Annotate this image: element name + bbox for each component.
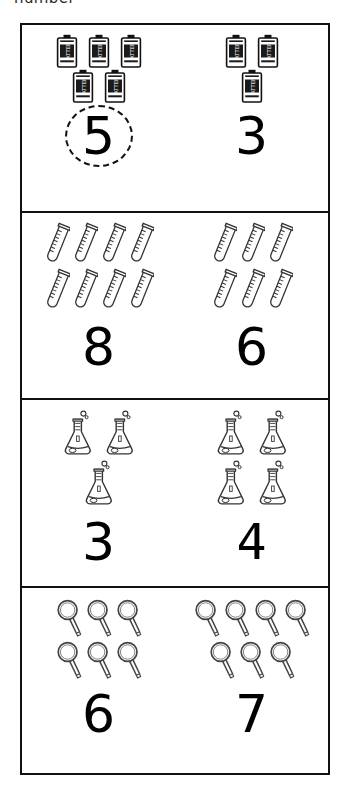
flask-icon <box>61 409 95 459</box>
battery-icon: BATTERY <box>72 69 94 103</box>
answer-choice[interactable]: 6 <box>59 683 139 745</box>
magnifying-glass-icon <box>55 639 83 681</box>
test-tube-icon <box>211 222 237 268</box>
battery-icon: BATTERY <box>225 34 247 68</box>
magnifying-glass-icon <box>223 597 251 639</box>
number-label: 7 <box>235 688 268 740</box>
icon-group <box>43 222 155 314</box>
row-test-tubes: 86 <box>22 213 328 401</box>
svg-text:BATTERY: BATTERY <box>96 39 102 63</box>
answer-choice[interactable]: 5 <box>59 105 139 167</box>
number-label: 3 <box>235 110 268 162</box>
answer-choice[interactable]: 6 <box>212 316 292 378</box>
icon-group <box>210 409 294 509</box>
test-tube-icon <box>267 268 293 314</box>
cell-magnifiers-left[interactable]: 6 <box>22 588 175 774</box>
icon-row <box>210 409 294 459</box>
cell-test-tubes-left[interactable]: 8 <box>22 213 175 399</box>
test-tube-icon <box>44 268 70 314</box>
icon-row <box>43 268 155 314</box>
icon-row: BATTERYBATTERY <box>220 34 284 68</box>
battery-icon: BATTERY <box>241 69 263 103</box>
icon-row: BATTERY <box>236 69 268 103</box>
icon-row <box>54 639 144 681</box>
row-magnifiers: 67 <box>22 588 328 774</box>
test-tube-icon <box>267 222 293 268</box>
magnifying-glass-icon <box>193 597 221 639</box>
number-label: 4 <box>236 517 266 567</box>
battery-icon: BATTERY <box>104 69 126 103</box>
row-flasks: 34 <box>22 400 328 588</box>
battery-icon: BATTERY <box>120 34 142 68</box>
worksheet-table: BATTERYBATTERYBATTERYBATTERYBATTERY5BATT… <box>20 23 330 775</box>
svg-text:BATTERY: BATTERY <box>233 39 239 63</box>
row-batteries: BATTERYBATTERYBATTERYBATTERYBATTERY5BATT… <box>22 25 328 213</box>
answer-choice[interactable]: 8 <box>59 316 139 378</box>
svg-text:BATTERY: BATTERY <box>112 74 118 98</box>
answer-choice[interactable]: 3 <box>212 105 292 167</box>
number-label: 5 <box>82 110 115 162</box>
test-tube-icon <box>211 268 237 314</box>
icon-group: BATTERYBATTERYBATTERY <box>220 34 284 103</box>
icon-row <box>210 268 294 314</box>
icon-group <box>210 222 294 314</box>
magnifying-glass-icon <box>55 597 83 639</box>
test-tube-icon <box>44 222 70 268</box>
number-label: 8 <box>82 321 115 373</box>
magnifying-glass-icon <box>238 639 266 681</box>
flask-icon <box>214 409 248 459</box>
icon-group <box>54 597 144 681</box>
icon-row <box>78 459 120 509</box>
battery-icon: BATTERY <box>257 34 279 68</box>
icon-row <box>207 639 297 681</box>
icon-group <box>57 409 141 509</box>
flask-icon <box>256 409 290 459</box>
flask-icon <box>103 409 137 459</box>
cell-flasks-left[interactable]: 3 <box>22 400 175 586</box>
magnifying-glass-icon <box>283 597 311 639</box>
answer-choice[interactable]: 4 <box>212 511 292 573</box>
test-tube-icon <box>100 268 126 314</box>
cell-test-tubes-right[interactable]: 6 <box>175 213 328 399</box>
magnifying-glass-icon <box>253 597 281 639</box>
number-label: 6 <box>235 321 268 373</box>
magnifying-glass-icon <box>268 639 296 681</box>
flask-icon <box>256 459 290 509</box>
cell-flasks-right[interactable]: 4 <box>175 400 328 586</box>
icon-row <box>43 222 155 268</box>
test-tube-icon <box>72 222 98 268</box>
svg-text:BATTERY: BATTERY <box>249 74 255 98</box>
icon-row: BATTERYBATTERY <box>67 69 131 103</box>
number-label: 3 <box>82 516 115 568</box>
svg-text:BATTERY: BATTERY <box>80 74 86 98</box>
test-tube-icon <box>128 268 154 314</box>
cell-batteries-right[interactable]: BATTERYBATTERYBATTERY3 <box>175 25 328 211</box>
icon-row <box>192 597 312 639</box>
icon-row <box>210 222 294 268</box>
battery-icon: BATTERY <box>56 34 78 68</box>
svg-text:BATTERY: BATTERY <box>64 39 70 63</box>
test-tube-icon <box>239 222 265 268</box>
cell-batteries-left[interactable]: BATTERYBATTERYBATTERYBATTERYBATTERY5 <box>22 25 175 211</box>
magnifying-glass-icon <box>208 639 236 681</box>
worksheet-instruction: number <box>14 0 75 6</box>
cell-magnifiers-right[interactable]: 7 <box>175 588 328 774</box>
icon-row: BATTERYBATTERYBATTERY <box>51 34 147 68</box>
answer-choice[interactable]: 7 <box>212 683 292 745</box>
flask-icon <box>82 459 116 509</box>
flask-icon <box>214 459 248 509</box>
magnifying-glass-icon <box>115 597 143 639</box>
icon-group: BATTERYBATTERYBATTERYBATTERYBATTERY <box>51 34 147 103</box>
test-tube-icon <box>239 268 265 314</box>
number-label: 6 <box>82 688 115 740</box>
answer-choice[interactable]: 3 <box>59 511 139 573</box>
magnifying-glass-icon <box>85 597 113 639</box>
icon-row <box>54 597 144 639</box>
battery-icon: BATTERY <box>88 34 110 68</box>
test-tube-icon <box>100 222 126 268</box>
icon-row <box>210 459 294 509</box>
test-tube-icon <box>72 268 98 314</box>
icon-group <box>192 597 312 681</box>
icon-row <box>57 409 141 459</box>
magnifying-glass-icon <box>85 639 113 681</box>
